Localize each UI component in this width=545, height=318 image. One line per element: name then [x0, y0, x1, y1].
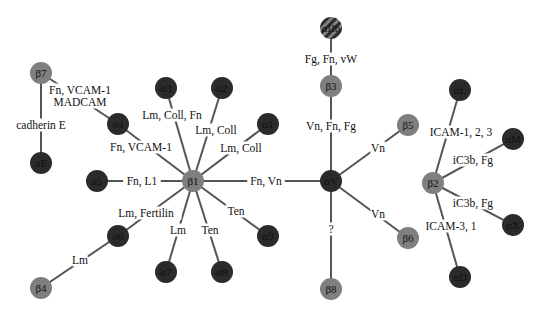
edge-label: ICAM-3, 1	[424, 220, 478, 234]
ligand-label: Lm, Coll, Fn	[142, 109, 202, 122]
edge-label: ICAM-1, 2, 3	[425, 126, 496, 140]
subunit-label: αIIb	[322, 22, 341, 34]
ligand-label: Fn, L1	[127, 175, 158, 188]
edge-label: Lm, Fertilin	[110, 207, 181, 221]
node-aIIb: αIIb	[320, 17, 342, 39]
ligand-label: ICAM-1, 2, 3	[430, 126, 493, 139]
ligand-label: Vn	[371, 142, 385, 154]
ligand-label: Lm, Coll	[220, 142, 262, 155]
node-a3: α3	[155, 77, 177, 99]
subunit-label: α7	[160, 266, 172, 278]
node-b7: β7	[30, 62, 52, 84]
subunit-label: α2	[216, 82, 227, 94]
ligand-label: cadherin E	[16, 119, 66, 131]
edge-label: Lm, Coll, Fn	[136, 109, 207, 123]
node-aD: αD	[449, 266, 471, 288]
subunit-label: αD	[453, 271, 467, 283]
edge-label: Lm	[72, 254, 88, 267]
node-a8: α8	[211, 261, 233, 283]
edge-label: Vn	[370, 142, 385, 155]
node-a7: α7	[155, 261, 177, 283]
edge-aV-b5	[331, 125, 408, 181]
edge-label: Ten	[200, 224, 221, 237]
edge-label: Lm, Coll	[192, 124, 241, 138]
edges-layer	[41, 28, 513, 289]
subunit-label: β8	[325, 283, 337, 295]
ligand-label: Lm, Fertilin	[118, 207, 174, 220]
subunit-label: α5	[91, 175, 103, 187]
ligand-label: Ten	[201, 224, 218, 236]
subunit-label: β1	[187, 175, 198, 187]
edge-aV-b6	[331, 181, 408, 238]
node-aL: αL	[449, 79, 471, 101]
node-a6: α6	[107, 225, 129, 247]
ligand-label: Fn, Vn	[250, 175, 282, 188]
edge-labels-layer: Fn, VCAM-1MADCAMcadherin EFn, VCAM-1Lm, …	[11, 53, 497, 267]
edge-label: Fn, Vn	[247, 175, 285, 189]
ligand-label: iC3b, Fg	[453, 154, 494, 167]
subunit-label: α3	[160, 82, 172, 94]
ligand-label: ICAM-3, 1	[425, 220, 476, 233]
node-aM: αM	[502, 128, 524, 150]
ligand-label: Ten	[227, 205, 244, 217]
subunit-label: αX	[506, 219, 520, 231]
subunit-label: αV	[324, 175, 338, 187]
ligand-label: iC3b, Fg	[453, 197, 494, 210]
subunit-label: αM	[505, 133, 521, 145]
ligand-label: Fg, Fn, vW	[305, 53, 358, 66]
subunit-label: β7	[35, 67, 47, 79]
edge-label: Fn, VCAM-1	[110, 141, 172, 155]
integrin-network-diagram: Fn, VCAM-1MADCAMcadherin EFn, VCAM-1Lm, …	[0, 0, 545, 318]
node-a4: α4	[107, 113, 129, 135]
subunit-label: αL	[454, 84, 467, 96]
node-b6: β6	[397, 227, 419, 249]
edge-label: ?	[326, 223, 336, 236]
edge-b1-a3	[166, 88, 193, 181]
node-a9: α9	[257, 225, 279, 247]
ligand-label: Lm, Coll	[195, 124, 237, 137]
node-b3: β3	[320, 75, 342, 97]
node-b1: β1	[182, 170, 204, 192]
node-aE: αE	[30, 152, 52, 174]
edge-label: iC3b, Fg	[449, 197, 498, 211]
edge-label: iC3b, Fg	[449, 154, 498, 168]
ligand-label: Lm	[72, 254, 88, 266]
node-b4: β4	[30, 277, 52, 299]
ligand-label: ?	[328, 223, 333, 235]
ligand-label: Vn, Fn, Fg	[306, 120, 356, 133]
node-aV: αV	[320, 170, 342, 192]
edge-label: Vn	[370, 208, 385, 221]
ligand-label: Vn	[371, 208, 385, 220]
node-b5: β5	[397, 114, 419, 136]
ligand-label: Fn, VCAM-1	[110, 141, 172, 154]
subunit-label: β5	[402, 119, 414, 131]
edge-label: Ten	[226, 205, 247, 218]
node-b2: β2	[422, 172, 444, 194]
subunit-label: β3	[325, 80, 337, 92]
subunit-label: α8	[216, 266, 228, 278]
edge-label: Lm	[170, 224, 186, 237]
edge-label: Fg, Fn, vW	[301, 53, 361, 67]
subunit-label: α1	[262, 118, 273, 130]
node-aX: αX	[502, 214, 524, 236]
subunit-label: α4	[112, 118, 124, 130]
subunit-label: β4	[35, 282, 47, 294]
ligand-label: Lm	[170, 224, 186, 236]
edge-label: Fn, L1	[123, 175, 161, 189]
node-a5: α5	[86, 170, 108, 192]
ligand-label: MADCAM	[53, 96, 106, 108]
edge-label: Fn, VCAM-1MADCAM	[49, 84, 111, 109]
subunit-label: α6	[112, 230, 124, 242]
subunit-label: αE	[35, 157, 48, 169]
subunit-label: α9	[262, 230, 274, 242]
node-a2: α2	[211, 77, 233, 99]
edge-label: cadherin E	[11, 119, 71, 132]
edge-label: Lm, Coll	[217, 142, 266, 156]
subunit-label: β6	[402, 232, 414, 244]
edge-label: Vn, Fn, Fg	[301, 120, 361, 134]
node-b8: β8	[320, 278, 342, 300]
subunit-label: β2	[427, 177, 438, 189]
node-a1: α1	[257, 113, 279, 135]
